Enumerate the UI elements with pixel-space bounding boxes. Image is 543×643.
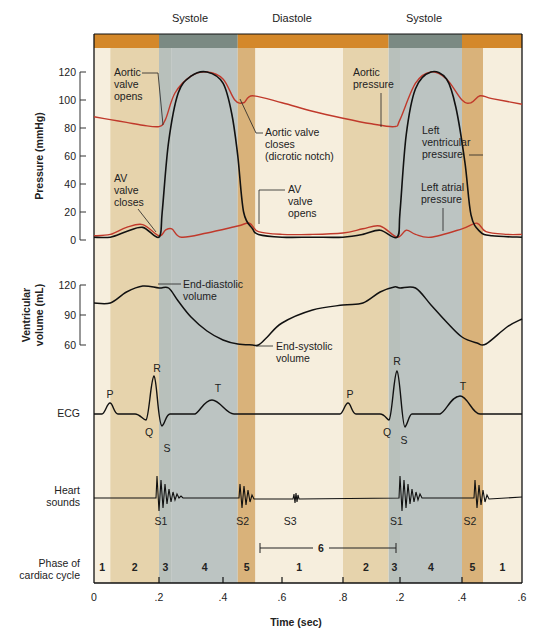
svg-text:valve: valve bbox=[114, 78, 139, 90]
volume-axis-label-2: volume (mL) bbox=[33, 284, 45, 346]
phase-band-2 bbox=[110, 48, 159, 583]
volume-tick-label: 60 bbox=[64, 339, 76, 351]
svg-text:Aortic valve: Aortic valve bbox=[265, 126, 319, 138]
ecg-p-label-1: P bbox=[106, 388, 113, 400]
svg-text:Left atrial: Left atrial bbox=[421, 181, 464, 193]
svg-text:(dicrotic notch): (dicrotic notch) bbox=[265, 150, 334, 162]
phase-number-2: 2 bbox=[132, 561, 138, 573]
bar-diastole bbox=[238, 34, 389, 48]
svg-text:AV: AV bbox=[114, 172, 127, 184]
svg-text:Aortic: Aortic bbox=[353, 66, 380, 78]
ecg-r-label-2: R bbox=[393, 355, 401, 367]
ecg-p-label-2: P bbox=[346, 388, 353, 400]
svg-text:Aortic: Aortic bbox=[114, 66, 141, 78]
heart-sounds-label-1: Heart bbox=[54, 484, 80, 496]
time-tick-label: .4 bbox=[458, 591, 467, 603]
svg-text:closes: closes bbox=[265, 138, 295, 150]
time-axis-label: Time (sec) bbox=[270, 616, 322, 628]
pressure-tick-label: 0 bbox=[70, 234, 76, 246]
phase-band-2 bbox=[343, 48, 389, 583]
bar-systole bbox=[159, 34, 238, 48]
svg-text:volume: volume bbox=[183, 290, 217, 302]
pressure-tick-label: 60 bbox=[64, 150, 76, 162]
pressure-tick-label: 100 bbox=[58, 94, 76, 106]
pressure-tick-label: 120 bbox=[58, 66, 76, 78]
ecg-r-label-1: R bbox=[153, 362, 161, 374]
volume-tick-label: 120 bbox=[58, 279, 76, 291]
time-tick-label: 0 bbox=[91, 591, 97, 603]
svg-text:closes: closes bbox=[114, 196, 144, 208]
pressure-tick-label: 40 bbox=[64, 178, 76, 190]
volume-axis-label-1: Ventricular bbox=[20, 288, 32, 342]
pressure-axis-label: Pressure (mmHg) bbox=[33, 112, 45, 200]
ecg-label: ECG bbox=[57, 407, 80, 419]
bar-diastole bbox=[462, 34, 522, 48]
time-tick-label: .6 bbox=[518, 591, 527, 603]
svg-text:Left: Left bbox=[422, 124, 440, 136]
ecg-s-label-2: S bbox=[400, 434, 407, 446]
time-tick-label: .2 bbox=[396, 591, 405, 603]
pressure-axis: 020406080100120 bbox=[58, 66, 86, 246]
bar-diastole bbox=[94, 34, 159, 48]
ecg-t-label-2: T bbox=[460, 380, 467, 392]
phase-band-1 bbox=[94, 48, 110, 583]
phase-band-3 bbox=[389, 48, 400, 583]
heart-sounds-label-2: sounds bbox=[46, 496, 80, 508]
phase-number-5: 5 bbox=[244, 561, 250, 573]
time-tick-label: .6 bbox=[278, 591, 287, 603]
phase-number-4: 4 bbox=[202, 561, 208, 573]
heart-sound-label-s1: S1 bbox=[390, 515, 403, 527]
heart-sound-label-s2: S2 bbox=[464, 515, 477, 527]
svg-text:End-diastolic: End-diastolic bbox=[183, 278, 243, 290]
ecg-s-label-1: S bbox=[163, 442, 170, 454]
phase-number-4: 4 bbox=[428, 561, 434, 573]
svg-text:pressure: pressure bbox=[353, 78, 394, 90]
phase-label-1: Phase of bbox=[39, 557, 81, 569]
phase-number-5: 5 bbox=[470, 561, 476, 573]
svg-text:valve: valve bbox=[114, 184, 139, 196]
time-tick-label: .8 bbox=[339, 591, 348, 603]
phase-number-1: 1 bbox=[500, 561, 506, 573]
phase-band-4 bbox=[172, 48, 238, 583]
phase-number-3: 3 bbox=[391, 561, 397, 573]
systole-diastole-bar bbox=[94, 34, 522, 48]
svg-text:End-systolic: End-systolic bbox=[276, 340, 333, 352]
volume-tick-label: 90 bbox=[64, 309, 76, 321]
phase-band-5 bbox=[462, 48, 483, 583]
time-tick-label: .4 bbox=[219, 591, 228, 603]
bar-systole bbox=[389, 34, 462, 48]
pressure-tick-label: 20 bbox=[64, 206, 76, 218]
phase-label-2: cardiac cycle bbox=[19, 569, 80, 581]
svg-text:pressure: pressure bbox=[421, 193, 462, 205]
svg-text:valve: valve bbox=[288, 195, 313, 207]
cardiac-cycle-figure: Systole Diastole Systole 020406080100120… bbox=[0, 0, 543, 643]
header-systole-1: Systole bbox=[172, 12, 208, 24]
heart-sound-label-s3: S3 bbox=[284, 515, 297, 527]
header-systole-2: Systole bbox=[406, 12, 442, 24]
svg-text:opens: opens bbox=[288, 207, 317, 219]
ecg-q-label-1: Q bbox=[145, 426, 153, 438]
phase-number-2: 2 bbox=[363, 561, 369, 573]
ecg-q-label-2: Q bbox=[383, 426, 391, 438]
svg-text:ventricular: ventricular bbox=[422, 136, 471, 148]
svg-text:pressure: pressure bbox=[422, 148, 463, 160]
heart-sound-label-s1: S1 bbox=[155, 515, 168, 527]
svg-text:opens: opens bbox=[114, 90, 143, 102]
phase-number-3: 3 bbox=[162, 561, 168, 573]
phase-6-label: 6 bbox=[318, 542, 324, 554]
svg-text:volume: volume bbox=[276, 352, 310, 364]
ecg-t-label-1: T bbox=[215, 382, 222, 394]
phase-band-1 bbox=[483, 48, 522, 583]
heart-sound-label-s2: S2 bbox=[236, 515, 249, 527]
phase-number-1: 1 bbox=[296, 561, 302, 573]
time-tick-label: .2 bbox=[155, 591, 164, 603]
volume-axis: 6090120 bbox=[58, 279, 86, 351]
phase-number-1: 1 bbox=[99, 561, 105, 573]
header-diastole: Diastole bbox=[272, 12, 312, 24]
pressure-tick-label: 80 bbox=[64, 122, 76, 134]
svg-text:AV: AV bbox=[288, 183, 301, 195]
